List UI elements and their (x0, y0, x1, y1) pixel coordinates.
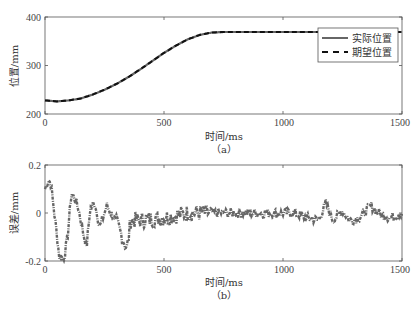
panel-b-xtick-500: 500 (157, 264, 172, 275)
panel-a-ytick-300: 300 (26, 60, 41, 71)
panel-a-xtick-1500: 1500 (390, 117, 410, 128)
panel-b-xtick-1000: 1000 (274, 264, 294, 275)
panel-a-ytick-200: 200 (26, 109, 41, 120)
panel-b-caption: （b） (211, 290, 237, 301)
panel-a-ytick-400: 400 (26, 12, 41, 23)
panel-b-ylabel: 误差/mm (8, 191, 20, 234)
panel-a-caption: （a） (211, 144, 237, 155)
panel-b-ytick-0.2: 0.2 (29, 160, 42, 171)
panel-a-xlabel: 时间/ms (205, 130, 243, 142)
panel-b: 0.2 0 -0.2 0 500 1000 1500 时间/ms （b） 误差/… (8, 160, 410, 301)
legend-actual-label: 实际位置 (352, 32, 392, 44)
panel-a-ylabel: 位置/mm (8, 44, 20, 87)
panel-b-xlabel: 时间/ms (205, 276, 243, 288)
panel-b-xtick-1500: 1500 (390, 264, 410, 275)
panel-a-xtick-500: 500 (157, 117, 172, 128)
panel-a-xtick-1000: 1000 (274, 117, 294, 128)
legend: 实际位置 期望位置 (318, 28, 398, 62)
panel-a: 400 300 200 0 500 1000 1500 时间/ms （a） 位置… (8, 12, 410, 155)
panel-b-ytick-0: 0 (36, 208, 41, 219)
panel-b-ytick-neg0.2: -0.2 (25, 256, 41, 267)
figure: 400 300 200 0 500 1000 1500 时间/ms （a） 位置… (0, 0, 419, 315)
error-line (45, 180, 402, 260)
panel-b-xtick-0: 0 (43, 264, 48, 275)
panel-a-xtick-0: 0 (43, 117, 48, 128)
legend-desired-label: 期望位置 (352, 46, 392, 58)
